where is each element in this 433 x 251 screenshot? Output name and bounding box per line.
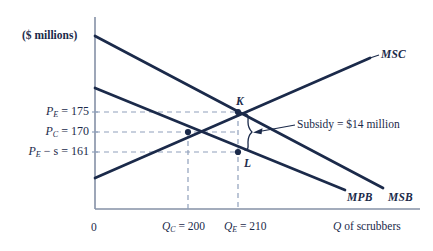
price-label-pe: PE = 175 [0,105,89,117]
point-label-l: L [244,158,251,170]
msc-leader-line [370,55,379,58]
subsidy-arrowhead [253,128,263,134]
quantity-label-qc-sub: C [170,225,175,234]
curve-label-mpb: MPB [347,192,373,204]
point-label-k: K [236,96,244,108]
point-k-marker [235,109,241,115]
price-label-pc-value: = 170 [58,124,89,138]
price-label-pe-minus-s-sub: E [36,150,41,159]
quantity-label-qc: QC = 200 [162,221,205,233]
quantity-label-qe-sub: E [232,225,237,234]
quantity-label-qe: QE = 210 [224,221,267,233]
curve-label-msc: MSC [381,49,406,61]
price-label-pc: PC = 170 [0,125,89,137]
curve-label-msb: MSB [388,192,413,204]
quantity-label-qc-value: = 200 [176,220,206,232]
price-label-pe-minus-s-var: P [28,144,35,158]
price-label-pc-sub: C [53,130,58,139]
price-label-pe-minus-s: PE − s = 161 [0,145,89,157]
price-label-pe-sub: E [53,110,58,119]
price-label-pc-var: P [45,124,52,138]
price-label-pe-minus-s-value: − s = 161 [41,144,89,158]
origin-label: 0 [91,222,97,234]
price-label-pe-value: = 175 [58,104,89,118]
y-axis-unit-label: ($ millions) [22,30,77,42]
point-l-marker [235,149,241,155]
x-axis-title: Q of scrubbers [333,221,401,233]
subsidy-annotation-label: Subsidy = $14 million [297,119,400,131]
point-qc-intersection-marker [185,129,191,135]
x-axis-title-rest: of scrubbers [341,220,400,232]
externality-subsidy-diagram: ($ millions) PE = 175 PC = 170 PE − s = … [0,0,433,251]
quantity-label-qe-value: = 210 [237,220,267,232]
